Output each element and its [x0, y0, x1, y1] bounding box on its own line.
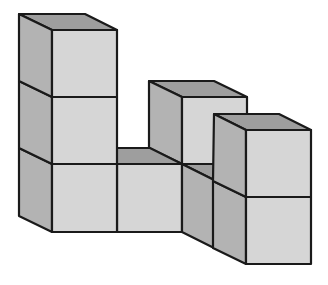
- cube-figure: [0, 0, 328, 285]
- cube-right-top: [213, 114, 311, 197]
- cube-left-top: [19, 14, 117, 97]
